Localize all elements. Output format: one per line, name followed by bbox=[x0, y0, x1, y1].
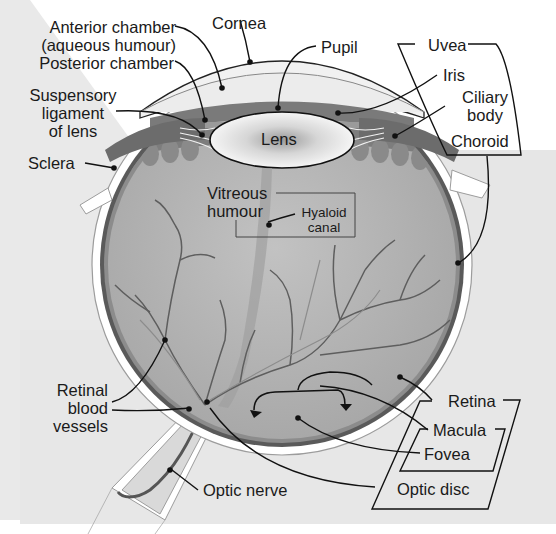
label-anterior-chamber-line2: (aqueous humour) bbox=[12, 36, 176, 54]
label-lens: Lens bbox=[261, 130, 297, 148]
label-retinal-blood-vessels: Retinal blood vessels bbox=[40, 381, 108, 435]
label-ciliary-body: Ciliary body bbox=[450, 88, 520, 124]
label-optic-nerve: Optic nerve bbox=[203, 481, 287, 499]
label-choroid: Choroid bbox=[451, 132, 509, 150]
label-iris: Iris bbox=[443, 66, 465, 84]
label-hyaloid-canal: Hyaloid canal bbox=[296, 205, 352, 235]
label-macula: Macula bbox=[433, 421, 486, 439]
label-hyaloid-line1: Hyaloid bbox=[296, 205, 352, 220]
label-retinal-line3: vessels bbox=[40, 417, 108, 435]
eye-anatomy-diagram: Anterior chamber (aqueous humour) Poster… bbox=[0, 0, 556, 534]
label-hyaloid-line2: canal bbox=[296, 220, 352, 235]
eye-illustration bbox=[0, 0, 556, 534]
label-sclera: Sclera bbox=[28, 154, 75, 172]
label-posterior-chamber: Posterior chamber bbox=[12, 54, 174, 72]
label-suspensory-line1: Suspensory bbox=[18, 86, 128, 104]
label-ciliary-line1: Ciliary bbox=[450, 88, 520, 106]
label-vitreous-line1: Vitreous bbox=[207, 184, 267, 202]
label-vitreous-humour: Vitreous humour bbox=[207, 184, 267, 220]
label-suspensory-line3: of lens bbox=[18, 122, 128, 140]
label-cornea: Cornea bbox=[212, 14, 266, 32]
label-anterior-chamber-line1: Anterior chamber bbox=[12, 18, 176, 36]
label-ciliary-line2: body bbox=[450, 106, 520, 124]
label-pupil: Pupil bbox=[321, 38, 358, 56]
label-fovea: Fovea bbox=[424, 445, 470, 463]
label-suspensory-line2: ligament bbox=[18, 104, 128, 122]
label-vitreous-line2: humour bbox=[207, 202, 267, 220]
label-retinal-line1: Retinal bbox=[40, 381, 108, 399]
label-optic-disc: Optic disc bbox=[397, 480, 469, 498]
label-suspensory-ligament: Suspensory ligament of lens bbox=[18, 86, 128, 140]
label-retinal-line2: blood bbox=[40, 399, 108, 417]
label-retina: Retina bbox=[448, 392, 496, 410]
label-anterior-chamber: Anterior chamber (aqueous humour) bbox=[12, 18, 176, 54]
label-uvea: Uvea bbox=[428, 36, 467, 54]
